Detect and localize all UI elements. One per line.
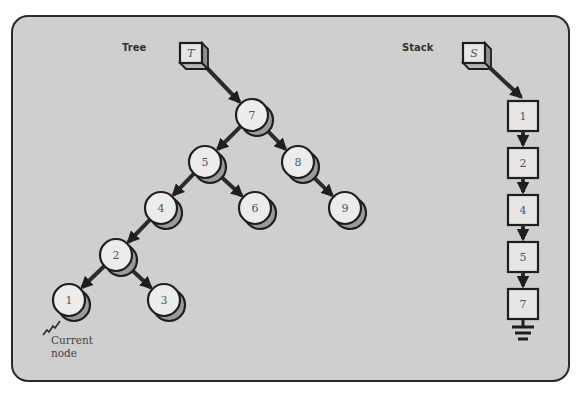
tree-node-label: 4 — [158, 202, 165, 215]
tree-node-label: 8 — [295, 156, 302, 169]
stack-item-label: 1 — [520, 110, 527, 123]
tree-title: Tree — [122, 42, 146, 53]
tree-node-label: 2 — [113, 249, 120, 262]
stack-item-4: 7 — [508, 289, 538, 319]
tree-node-label: 1 — [66, 294, 73, 307]
stack-item-label: 5 — [520, 251, 527, 264]
stack-top-pointer-label: S — [470, 47, 478, 60]
diagram-canvas: Tree Stack 758469213 T Current node S 12… — [0, 0, 581, 394]
tree-node-label: 3 — [161, 294, 168, 307]
current-node-label-line1: Current — [51, 334, 94, 346]
tree-node-label: 7 — [249, 109, 256, 122]
stack-top-pointer: S — [463, 43, 491, 69]
current-node-label-line2: node — [51, 347, 77, 359]
tree-node-label: 5 — [202, 156, 209, 169]
tree-root-pointer: T — [180, 43, 208, 69]
tree-node-label: 6 — [252, 202, 259, 215]
stack-item-label: 4 — [520, 204, 527, 217]
stack-item-label: 7 — [520, 298, 527, 311]
tree-node-label: 9 — [342, 202, 349, 215]
stack-item-label: 2 — [520, 157, 527, 170]
diagram-frame — [12, 16, 569, 381]
stack-title: Stack — [402, 42, 434, 53]
